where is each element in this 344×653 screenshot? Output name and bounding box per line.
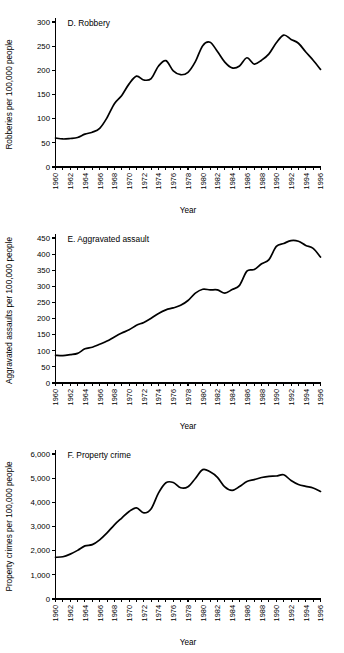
y-tick-label: 400 <box>37 250 51 259</box>
x-tick-label: 1970 <box>125 605 134 621</box>
data-series-line <box>56 35 321 139</box>
x-tick-label: 1978 <box>184 605 193 621</box>
data-series-line <box>56 469 321 557</box>
x-tick-label: 1972 <box>140 605 149 621</box>
x-tick-label: 1982 <box>213 605 222 621</box>
x-tick-label: 1996 <box>316 173 325 189</box>
x-tick-label: 1974 <box>154 389 163 405</box>
x-tick-label: 1988 <box>258 605 267 621</box>
x-tick-label: 1994 <box>302 605 311 621</box>
x-tick-label: 1960 <box>51 173 60 189</box>
x-tick-label: 1968 <box>110 173 119 189</box>
x-axis-title: Year <box>180 422 197 431</box>
x-tick-label: 1994 <box>302 389 311 405</box>
x-tick-label: 1960 <box>51 605 60 621</box>
chart-property-crime: 01,0002,0003,0004,0005,0006,000196019621… <box>0 432 344 650</box>
y-tick-label: 100 <box>37 347 51 356</box>
x-tick-label: 1970 <box>125 389 134 405</box>
y-tick-label: 150 <box>37 90 51 99</box>
x-tick-label: 1966 <box>96 605 105 621</box>
x-tick-label: 1980 <box>199 389 208 405</box>
y-axis-title: Aggravated assaults per 100,000 people <box>5 237 14 384</box>
x-tick-label: 1962 <box>66 173 75 189</box>
chart-panel-aggravated-assault: 0501001502002503003504004501960196219641… <box>0 216 344 434</box>
x-tick-label: 1974 <box>154 605 163 621</box>
chart-panel-property-crime: 01,0002,0003,0004,0005,0006,000196019621… <box>0 432 344 650</box>
x-tick-label: 1990 <box>272 389 281 405</box>
x-tick-label: 1964 <box>81 389 90 405</box>
y-axis-title: Robberies per 100,000 people <box>5 39 14 150</box>
y-tick-label: 0 <box>46 595 51 604</box>
x-tick-label: 1978 <box>184 173 193 189</box>
y-tick-label: 200 <box>37 314 51 323</box>
x-tick-label: 1996 <box>316 605 325 621</box>
panel-title: E. Aggravated assault <box>68 234 150 244</box>
y-tick-label: 4,000 <box>30 498 50 507</box>
x-tick-label: 1986 <box>243 173 252 189</box>
x-tick-label: 1964 <box>81 605 90 621</box>
x-tick-label: 1990 <box>272 173 281 189</box>
x-tick-label: 1970 <box>125 173 134 189</box>
x-tick-label: 1972 <box>140 389 149 405</box>
chart-aggravated-assault: 0501001502002503003504004501960196219641… <box>0 216 344 434</box>
x-tick-label: 1964 <box>81 173 90 189</box>
x-tick-label: 1996 <box>316 389 325 405</box>
y-tick-label: 3,000 <box>30 522 50 531</box>
x-tick-label: 1992 <box>287 173 296 189</box>
crime-trends-figure: 0501001502002503001960196219641966196819… <box>0 0 344 653</box>
x-tick-label: 1966 <box>96 173 105 189</box>
y-tick-label: 1,000 <box>30 571 50 580</box>
x-tick-label: 1968 <box>110 605 119 621</box>
y-tick-label: 300 <box>37 18 51 27</box>
x-tick-label: 1962 <box>66 389 75 405</box>
x-tick-label: 1990 <box>272 605 281 621</box>
chart-robbery: 0501001502002503001960196219641966196819… <box>0 0 344 218</box>
x-tick-label: 1988 <box>258 389 267 405</box>
y-tick-label: 50 <box>41 139 50 148</box>
x-axis-title: Year <box>180 638 197 647</box>
y-tick-label: 5,000 <box>30 474 50 483</box>
x-tick-label: 1966 <box>96 389 105 405</box>
x-tick-label: 1968 <box>110 389 119 405</box>
y-tick-label: 250 <box>37 42 51 51</box>
y-tick-label: 2,000 <box>30 546 50 555</box>
y-tick-label: 6,000 <box>30 450 50 459</box>
x-tick-label: 1986 <box>243 389 252 405</box>
y-tick-label: 0 <box>46 379 51 388</box>
panel-title: F. Property crime <box>68 450 132 460</box>
x-tick-label: 1988 <box>258 173 267 189</box>
x-tick-label: 1982 <box>213 389 222 405</box>
x-tick-label: 1986 <box>243 605 252 621</box>
y-tick-label: 150 <box>37 330 51 339</box>
chart-panel-robbery: 0501001502002503001960196219641966196819… <box>0 0 344 218</box>
data-series-line <box>56 240 321 355</box>
y-tick-label: 250 <box>37 298 51 307</box>
y-tick-label: 50 <box>41 363 50 372</box>
x-tick-label: 1974 <box>154 173 163 189</box>
panel-title: D. Robbery <box>68 18 111 28</box>
x-tick-label: 1972 <box>140 173 149 189</box>
x-tick-label: 1976 <box>169 605 178 621</box>
y-tick-label: 450 <box>37 234 51 243</box>
x-tick-label: 1992 <box>287 389 296 405</box>
y-tick-label: 200 <box>37 66 51 75</box>
x-tick-label: 1976 <box>169 173 178 189</box>
x-tick-label: 1962 <box>66 605 75 621</box>
x-tick-label: 1984 <box>228 389 237 405</box>
x-tick-label: 1978 <box>184 389 193 405</box>
y-tick-label: 300 <box>37 282 51 291</box>
x-tick-label: 1980 <box>199 605 208 621</box>
x-tick-label: 1994 <box>302 173 311 189</box>
y-axis-title: Property crimes per 100,000 people <box>5 461 14 592</box>
x-tick-label: 1992 <box>287 605 296 621</box>
x-tick-label: 1984 <box>228 173 237 189</box>
x-tick-label: 1980 <box>199 173 208 189</box>
y-tick-label: 100 <box>37 114 51 123</box>
x-tick-label: 1984 <box>228 605 237 621</box>
x-axis-title: Year <box>180 206 197 215</box>
y-tick-label: 0 <box>46 163 51 172</box>
x-tick-label: 1960 <box>51 389 60 405</box>
x-tick-label: 1976 <box>169 389 178 405</box>
y-tick-label: 350 <box>37 266 51 275</box>
x-tick-label: 1982 <box>213 173 222 189</box>
